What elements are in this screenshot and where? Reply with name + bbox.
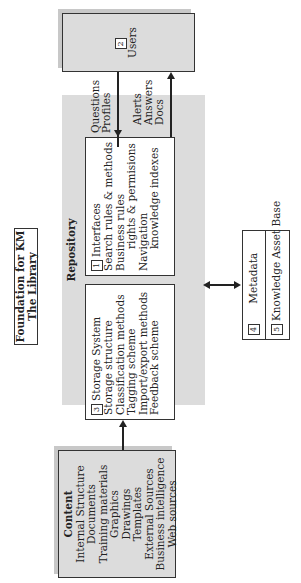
kab-title: Knowledge Asset Base [270,201,282,321]
storage-title: Storage System [90,317,102,401]
foundation-title: Foundation for KM [15,229,27,344]
metadata-row: 4 Metadata [243,231,266,339]
kab-row: 5Knowledge Asset Base [266,231,283,339]
interfaces-item: rights & permisions [126,138,138,271]
arrowhead-icon [203,281,210,289]
repository-title: Repository [66,95,78,405]
interfaces-item: Search rules & methods [103,138,115,271]
content-to-storage-arrow [122,426,124,450]
foundation-subtitle: The Library [27,229,39,344]
metadata-kab-box: 4 Metadata 5Knowledge Asset Base [242,230,290,340]
content-item: Documents [86,451,98,577]
interfaces-title: Interfaces [90,203,102,257]
content-item: Templates [132,451,144,577]
content-item: Graphics [109,451,121,577]
users-box: 2 Users [62,13,195,72]
arrowhead-icon [119,420,127,427]
arrowhead-icon [234,281,241,289]
metadata-number-badge: 4 [248,324,260,335]
storage-item: Tagging scheme [126,285,138,415]
flow-label: Docs [154,80,165,125]
storage-item: Feedback scheme [149,285,161,415]
users-title: Users [126,27,138,58]
answers-flow-line [170,77,172,137]
interfaces-box: 1Interfaces Search rules & methods Busin… [85,137,175,276]
metadata-title: Metadata [247,253,259,304]
arrowhead-icon [167,72,175,79]
content-title: Content [63,451,75,577]
km-library-diagram: Foundation for KM The Library Content In… [0,0,301,583]
foundation-title-box: Foundation for KM The Library [14,228,38,345]
storage-item: Storage structure [103,285,115,415]
content-item: Web sources [167,451,179,577]
users-label: 2 Users [115,14,139,71]
interfaces-item: knowledge indexes [149,138,161,271]
kab-number-badge: 5 [271,324,283,335]
content-box: Content Internal Structure Documents Tra… [58,450,176,578]
flow-label: Profiles [101,80,112,133]
storage-system-box: 3Storage System Storage structure Classi… [85,284,175,420]
questions-profiles-label: Questions Profiles [90,80,112,133]
alerts-answers-docs-label: Alerts Answers Docs [132,80,165,125]
arrowhead-icon [114,130,122,137]
content-item: Business intelligence [155,451,167,577]
